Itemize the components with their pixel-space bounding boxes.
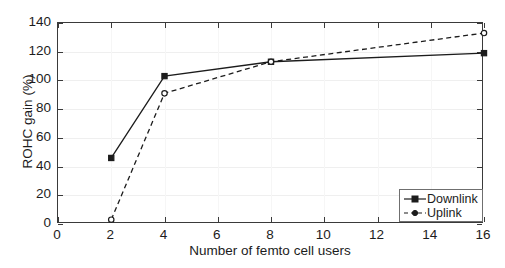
x-tick-label: 8 — [250, 227, 290, 242]
y-tick-label: 100 — [5, 71, 51, 86]
chart-figure: ROHC gain (%) Number of femto cell users… — [0, 0, 505, 268]
y-tick-mark — [58, 224, 63, 225]
legend-label-downlink: Downlink — [427, 193, 478, 205]
y-tick-label: 80 — [5, 100, 51, 115]
x-tick-mark-top — [484, 23, 485, 28]
data-point-downlink-16 — [481, 51, 486, 56]
y-tick-label: 140 — [5, 14, 51, 29]
data-point-uplink-8 — [268, 59, 273, 64]
x-tick-label: 12 — [357, 227, 397, 242]
x-tick-label: 16 — [463, 227, 503, 242]
legend-item-uplink[interactable]: Uplink — [403, 206, 482, 220]
x-tick-label: 2 — [90, 227, 130, 242]
chart-legend[interactable]: Downlink Uplink — [399, 189, 483, 222]
y-tick-label: 60 — [5, 129, 51, 144]
data-point-uplink-2 — [109, 217, 114, 222]
x-tick-label: 6 — [197, 227, 237, 242]
y-tick-label: 20 — [5, 186, 51, 201]
data-point-downlink-2 — [109, 155, 114, 160]
data-point-downlink-4 — [162, 74, 167, 79]
series-line-downlink — [111, 53, 484, 158]
y-tick-mark-right — [477, 224, 482, 225]
legend-swatch-dashed-circle-icon — [403, 207, 427, 219]
x-tick-label: 4 — [144, 227, 184, 242]
y-tick-label: 120 — [5, 43, 51, 58]
x-tick-label: 14 — [410, 227, 450, 242]
x-tick-label: 0 — [37, 227, 77, 242]
legend-label-uplink: Uplink — [427, 207, 462, 219]
x-tick-label: 10 — [303, 227, 343, 242]
y-tick-label: 40 — [5, 158, 51, 173]
x-axis-title: Number of femto cell users — [57, 243, 483, 258]
data-point-uplink-16 — [481, 30, 486, 35]
x-tick-mark — [484, 217, 485, 222]
y-axis-title: ROHC gain (%) — [20, 32, 35, 212]
legend-swatch-solid-square-icon — [403, 193, 427, 205]
data-point-uplink-4 — [162, 91, 167, 96]
legend-item-downlink[interactable]: Downlink — [403, 192, 482, 206]
plot-area: Downlink Uplink — [57, 22, 483, 223]
